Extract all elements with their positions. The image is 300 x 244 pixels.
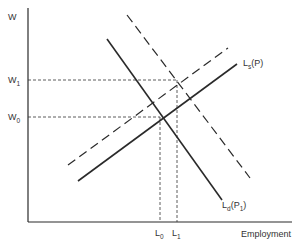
labor-supply-curve	[78, 64, 237, 181]
y-axis-label: W	[8, 12, 17, 22]
labor-market-diagram: W Employment W1 W0 L0 L1 Ls(P) Ld(P1)	[0, 0, 300, 244]
l0-label: L0	[155, 228, 164, 240]
labor-supply-label: Ls(P)	[243, 58, 263, 70]
labor-demand-label: Ld(P1)	[222, 200, 246, 212]
w1-label: W1	[8, 75, 21, 87]
x-axis-label: Employment	[241, 229, 292, 239]
w0-label: W0	[8, 112, 21, 124]
labor-demand-curve	[107, 39, 222, 200]
l1-label: L1	[172, 228, 181, 240]
labor-supply-shifted-curve	[68, 48, 228, 165]
